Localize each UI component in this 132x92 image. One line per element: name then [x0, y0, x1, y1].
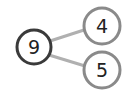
part-2-label: 5	[96, 59, 108, 81]
number-bond-diagram: 9 4 5	[0, 0, 132, 92]
part-1-label: 4	[96, 15, 108, 37]
connector-whole-to-part-2	[49, 55, 85, 66]
part-circle-2: 5	[84, 52, 120, 88]
connector-whole-to-part-1	[50, 30, 84, 41]
part-circle-1: 4	[84, 8, 120, 44]
whole-label: 9	[28, 36, 40, 58]
whole-circle: 9	[17, 30, 51, 64]
